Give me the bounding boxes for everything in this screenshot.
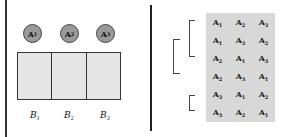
perm-cell: A2 [259,35,269,46]
perm-cell: A1 [259,71,269,82]
perm-cell: A3 [236,35,246,46]
perm-cell: A2 [213,71,223,82]
object-circle-3: A3 [96,24,115,43]
panel-divider [150,5,152,131]
permutation-grid: A1 A2 A3 A1 A3 A2 A2 A1 A3 A2 A3 A1 A3 A… [206,13,275,122]
perm-cell: A2 [213,53,223,64]
box-label-2: B2 [64,110,74,121]
perm-cell: A2 [236,17,246,28]
box-label-1: B1 [30,110,40,121]
box-label-3: B3 [100,110,110,121]
box-1 [18,53,52,99]
perm-cell: A1 [259,107,269,118]
perm-cell: A1 [236,89,246,100]
object-subscript: 3 [107,31,110,37]
perm-cell: A3 [259,53,269,64]
perm-cell: A2 [259,89,269,100]
object-circle-1: A1 [23,24,42,43]
object-subscript: 1 [34,31,37,37]
bracket-rows-2-4 [173,39,180,74]
perm-cell: A2 [236,107,246,118]
box-2 [52,53,86,99]
bracket-rows-5-6 [189,95,195,111]
perm-cell: A1 [213,17,223,28]
object-circle-2: A2 [60,24,79,43]
box-3 [87,53,120,99]
bracket-rows-1-3 [189,20,195,57]
perm-cell: A3 [213,107,223,118]
perm-cell: A3 [259,17,269,28]
frame-left-border [5,0,7,137]
perm-cell: A1 [236,53,246,64]
boxes-row [17,52,121,100]
object-subscript: 2 [71,31,74,37]
perm-cell: A1 [213,35,223,46]
perm-cell: A3 [213,89,223,100]
perm-cell: A3 [236,71,246,82]
